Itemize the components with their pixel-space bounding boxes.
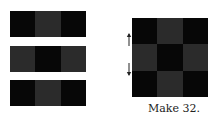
strip-1 [10,11,86,37]
grey-square [157,18,182,44]
black-square [10,11,35,37]
caption: Make 32. [148,102,200,115]
black-square [10,80,35,106]
nine-patch-block [132,18,208,97]
black-square [61,80,86,106]
arrow-up-icon [126,33,132,47]
strip-2 [10,46,86,72]
arrow-down-icon [126,62,132,76]
grey-square [35,11,60,37]
grey-square [61,46,86,72]
grey-square [157,71,182,97]
black-square [132,18,157,44]
black-square [183,18,208,44]
grey-square [10,46,35,72]
grey-square [132,44,157,70]
grey-square [35,80,60,106]
strip-3 [10,80,86,106]
black-square [157,44,182,70]
black-square [61,11,86,37]
black-square [183,71,208,97]
grey-square [183,44,208,70]
black-square [132,71,157,97]
black-square [35,46,60,72]
